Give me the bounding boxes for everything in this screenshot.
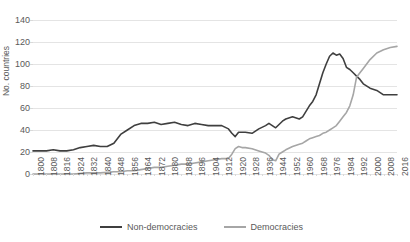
- legend-swatch-icon: [100, 226, 122, 228]
- x-axis-tickmark: [303, 174, 304, 176]
- x-axis-tick-label: 1856: [131, 157, 139, 176]
- x-axis-tickmark: [370, 174, 371, 176]
- y-axis-tick-label: 80: [4, 82, 30, 91]
- legend-label: Democracies: [251, 222, 304, 232]
- x-axis-tick-label: 2016: [401, 157, 409, 176]
- x-axis-tickmark: [330, 174, 331, 176]
- y-axis-tick-label: 140: [4, 16, 30, 25]
- y-axis-tick-label: 40: [4, 126, 30, 135]
- x-axis-tickmark: [33, 174, 34, 176]
- legend-swatch-icon: [224, 226, 246, 228]
- x-axis-tick-label: 1968: [320, 157, 328, 176]
- y-axis-ticks: 140120100806040200: [0, 20, 30, 174]
- x-axis-tick-label: 1952: [293, 157, 301, 176]
- x-axis-tick-label: 1944: [279, 157, 287, 176]
- x-axis-tick-label: 1960: [306, 157, 314, 176]
- legend-item-democracies[interactable]: Democracies: [224, 222, 304, 232]
- series-line-democracies: [33, 46, 397, 174]
- x-axis-tick-label: 1864: [144, 157, 152, 176]
- y-axis-tick-label: 60: [4, 104, 30, 113]
- series-lines: [33, 20, 397, 174]
- x-axis-tickmark: [384, 174, 385, 176]
- plot-area: [33, 20, 397, 174]
- x-axis-tickmark: [100, 174, 101, 176]
- x-axis-tickmark: [154, 174, 155, 176]
- x-axis-tick-label: 1808: [50, 157, 58, 176]
- x-axis-tickmark: [87, 174, 88, 176]
- x-axis-tick-label: 1912: [225, 157, 233, 176]
- legend-label: Non-democracies: [127, 222, 198, 232]
- chart-title: Number of democracies and non-democracie…: [0, 0, 403, 1]
- x-axis-tickmark: [73, 174, 74, 176]
- x-axis-tickmark: [127, 174, 128, 176]
- y-axis-tick-label: 0: [4, 170, 30, 179]
- x-axis-tickmark: [181, 174, 182, 176]
- x-axis-tick-label: 1816: [63, 157, 71, 176]
- x-axis-tickmark: [357, 174, 358, 176]
- x-axis-tickmark: [222, 174, 223, 176]
- chart-legend: Non-democraciesDemocracies: [0, 222, 403, 232]
- x-axis-tickmark: [289, 174, 290, 176]
- x-axis-tickmark: [60, 174, 61, 176]
- x-axis-tickmark: [168, 174, 169, 176]
- x-axis-tickmark: [397, 174, 398, 176]
- x-axis-tickmark: [208, 174, 209, 176]
- x-axis-tick-label: 1800: [37, 157, 45, 176]
- x-axis-tick-label: 1848: [117, 157, 125, 176]
- x-axis-tick-label: 2000: [374, 157, 382, 176]
- x-axis-tick-label: 1984: [347, 157, 355, 176]
- x-axis-tickmark: [114, 174, 115, 176]
- x-axis-tick-label: 1976: [333, 157, 341, 176]
- x-axis-tickmark: [249, 174, 250, 176]
- x-axis-tick-label: 1824: [77, 157, 85, 176]
- x-axis-tick-label: 1872: [158, 157, 166, 176]
- x-axis-tickmark: [46, 174, 47, 176]
- y-axis-tick-label: 120: [4, 38, 30, 47]
- x-axis-tickmark: [195, 174, 196, 176]
- x-axis-tickmark: [316, 174, 317, 176]
- x-axis-tickmark: [262, 174, 263, 176]
- y-axis-tick-label: 20: [4, 148, 30, 157]
- x-axis-tick-label: 1992: [360, 157, 368, 176]
- series-line-non-democracies: [33, 53, 397, 151]
- x-axis-tick-label: 1920: [239, 157, 247, 176]
- x-axis-tick-label: 1936: [266, 157, 274, 176]
- x-axis-tick-label: 1832: [90, 157, 98, 176]
- x-axis-tick-label: 1840: [104, 157, 112, 176]
- x-axis-tick-label: 2008: [387, 157, 395, 176]
- x-axis-tickmark: [141, 174, 142, 176]
- x-axis-tickmark: [343, 174, 344, 176]
- x-axis-tick-label: 1888: [185, 157, 193, 176]
- x-axis-tick-label: 1896: [198, 157, 206, 176]
- x-axis-tick-label: 1928: [252, 157, 260, 176]
- x-axis-tick-label: 1880: [171, 157, 179, 176]
- x-axis-tickmark: [276, 174, 277, 176]
- legend-item-non-democracies[interactable]: Non-democracies: [100, 222, 198, 232]
- y-axis-tick-label: 100: [4, 60, 30, 69]
- x-axis-tick-label: 1904: [212, 157, 220, 176]
- x-axis-tickmark: [235, 174, 236, 176]
- x-axis-ticks: 1800180818161824183218401848185618641872…: [33, 176, 397, 216]
